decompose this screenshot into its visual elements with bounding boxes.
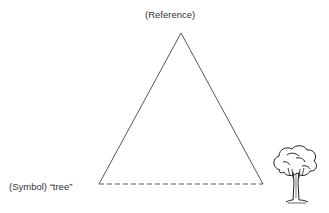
reference-referent-edge (181, 33, 263, 184)
triangle (99, 33, 263, 184)
triangle-diagram (0, 0, 329, 213)
symbol-reference-edge (99, 33, 181, 184)
tree-icon (274, 146, 317, 203)
